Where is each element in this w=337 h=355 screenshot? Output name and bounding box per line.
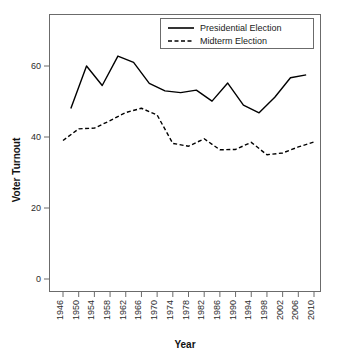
x-tick-label: 1966	[133, 300, 143, 320]
x-tick-label: 1978	[181, 300, 191, 320]
y-tick-label: 20	[31, 203, 41, 213]
chart-container: 0204060 19461950195419581962196619701974…	[0, 0, 337, 355]
x-tick-label: 1982	[196, 300, 206, 320]
x-tick-label: 2006	[290, 300, 300, 320]
x-tick-label: 1974	[165, 300, 175, 320]
chart-legend: Presidential ElectionMidterm Election	[161, 19, 314, 49]
x-tick-label: 1954	[86, 300, 96, 320]
x-tick-label: 1994	[243, 300, 253, 320]
x-tick-label: 1990	[228, 300, 238, 320]
x-tick-label: 1958	[102, 300, 112, 320]
voter-turnout-line-chart: 0204060 19461950195419581962196619701974…	[0, 0, 337, 355]
x-tick-label: 2002	[275, 300, 285, 320]
legend-label-2: Midterm Election	[200, 36, 267, 46]
x-tick-label: 1946	[55, 300, 65, 320]
x-tick-label: 1962	[118, 300, 128, 320]
x-tick-label: 1998	[259, 300, 269, 320]
y-tick-label: 40	[31, 132, 41, 142]
x-axis-title: Year	[174, 339, 195, 350]
x-tick-label: 1986	[212, 300, 222, 320]
x-tick-label: 2010	[306, 300, 316, 320]
y-tick-label: 60	[31, 61, 41, 71]
y-axis-title: Voter Turnout	[11, 137, 22, 202]
x-tick-label: 1950	[71, 300, 81, 320]
y-tick-label: 0	[36, 274, 41, 284]
legend-label-1: Presidential Election	[200, 23, 282, 33]
x-tick-label: 1970	[149, 300, 159, 320]
